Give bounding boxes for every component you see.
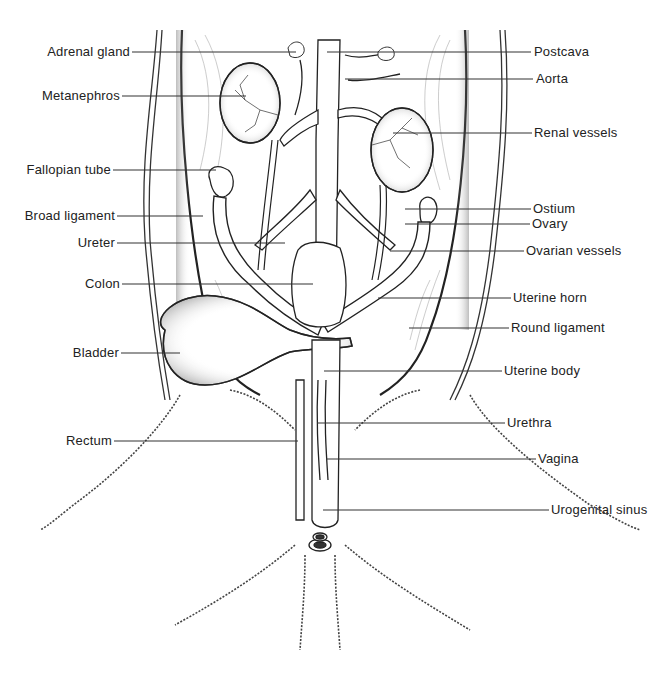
label-metanephros: Metanephros [42,89,120,103]
label-renal-vessels: Renal vessels [534,126,618,140]
label-adrenal-gland: Adrenal gland [47,45,130,59]
label-fallopian-tube: Fallopian tube [27,163,111,177]
label-ovarian-vessels: Ovarian vessels [526,244,621,258]
label-bladder: Bladder [73,346,119,360]
label-ureter: Ureter [78,236,115,250]
urogenital-opening [309,533,331,551]
label-postcava: Postcava [534,45,589,59]
label-urethra: Urethra [507,416,552,430]
label-urogenital-sinus: Urogenital sinus [551,503,647,517]
central-tube [296,340,340,528]
label-vagina: Vagina [538,452,579,466]
label-colon: Colon [85,277,120,291]
label-aorta: Aorta [536,72,568,86]
label-ostium: Ostium [533,202,575,216]
label-rectum: Rectum [66,434,112,448]
label-uterine-horn: Uterine horn [513,291,587,305]
label-ovary: Ovary [532,217,568,231]
label-uterine-body: Uterine body [504,364,580,378]
label-broad-ligament: Broad ligament [25,209,115,223]
adrenal-glands [288,42,394,61]
label-round-ligament: Round ligament [511,321,605,335]
